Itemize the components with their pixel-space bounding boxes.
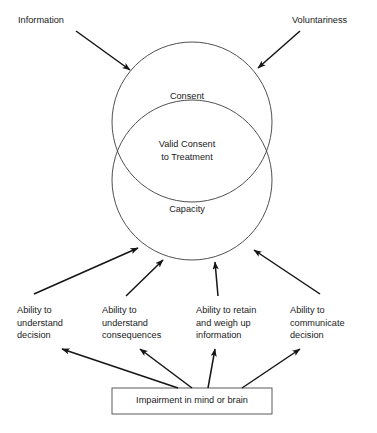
- arrow-understand-consequences-to-capacity: [126, 260, 163, 296]
- arrow-communicate-decision-to-capacity: [254, 250, 320, 294]
- label-valid-consent-to-treatment: Valid Consent to Treatment: [139, 138, 235, 163]
- arrow-impairment-to-retain-weigh: [208, 349, 215, 388]
- arrow-voluntariness-to-consent: [258, 31, 300, 68]
- diagram-canvas: Information Voluntariness Consent Valid …: [0, 0, 377, 433]
- label-consent: Consent: [139, 90, 235, 103]
- label-impairment-in-mind-or-brain: Impairment in mind or brain: [113, 394, 271, 407]
- arrow-information-to-consent: [76, 31, 130, 70]
- label-ability-understand-decision: Ability to understand decision: [17, 304, 91, 342]
- label-information: Information: [18, 14, 64, 27]
- capacity-circle: [112, 100, 272, 260]
- arrow-understand-decision-to-capacity: [34, 248, 138, 294]
- diagram-graphics: [0, 0, 377, 433]
- label-ability-retain-and-weigh-up-information: Ability to retain and weigh up informati…: [196, 304, 280, 342]
- arrow-impairment-to-understand-consequences: [140, 349, 192, 388]
- arrow-impairment-to-understand-decision: [62, 349, 178, 388]
- arrow-impairment-to-communicate-decision: [242, 349, 300, 388]
- label-ability-understand-consequences: Ability to understand consequences: [102, 304, 184, 342]
- label-ability-communicate-decision: Ability to communicate decision: [290, 304, 366, 342]
- arrow-retain-weigh-to-capacity: [215, 262, 218, 296]
- consent-circle: [112, 42, 272, 202]
- label-capacity: Capacity: [139, 203, 235, 216]
- label-voluntariness: Voluntariness: [292, 14, 347, 27]
